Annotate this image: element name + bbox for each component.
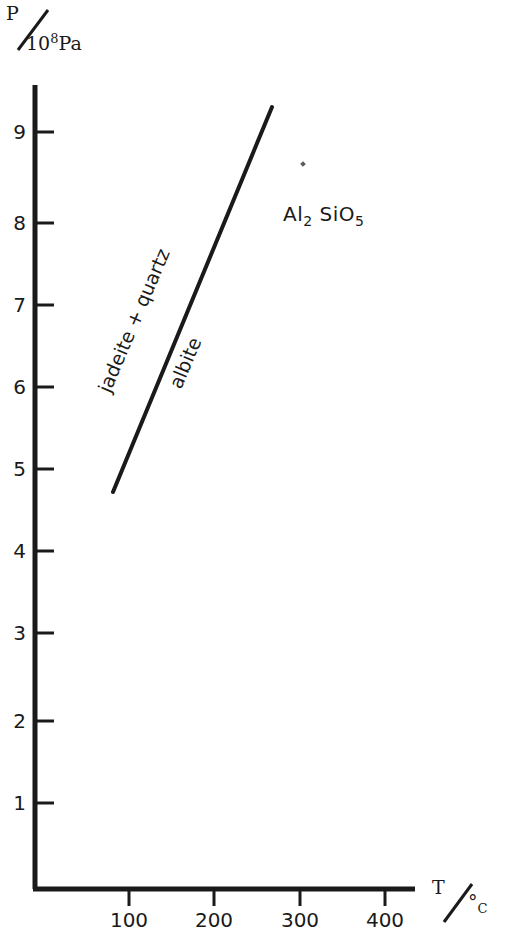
- y-tick-label-1: 1: [0, 793, 26, 813]
- y-axis-unit-pa: Pa: [58, 32, 81, 54]
- y-axis-title-denominator: 108Pa: [26, 34, 82, 53]
- y-tick-label-5: 5: [0, 459, 26, 479]
- plot-area: [0, 0, 512, 935]
- y-tick-label-8: 8: [0, 213, 26, 233]
- y-tick-label-2: 2: [0, 711, 26, 731]
- y-tick-label-3: 3: [0, 623, 26, 643]
- y-axis-ticks: [36, 132, 54, 803]
- degree-symbol: °: [468, 890, 478, 912]
- x-tick-label-300: 300: [270, 910, 330, 930]
- x-tick-label-100: 100: [99, 910, 159, 930]
- y-tick-label-6: 6: [0, 377, 26, 397]
- formula-element-sio: SiO: [320, 202, 356, 226]
- x-axis-title-denominator: °C: [468, 892, 487, 911]
- formula-subscript-2: 2: [303, 213, 312, 229]
- formula-subscript-5: 5: [355, 213, 364, 229]
- y-axis-title: P 108Pa: [4, 4, 134, 70]
- x-tick-label-400: 400: [355, 910, 415, 930]
- y-axis-unit-base: 10: [26, 32, 50, 54]
- y-tick-label-7: 7: [0, 295, 26, 315]
- x-axis-title: T °C: [430, 878, 510, 934]
- phase-diagram-figure: P 108Pa T °C 9 8 7 6 5 4 3 2 1 100 200 3…: [0, 0, 512, 935]
- x-tick-label-200: 200: [184, 910, 244, 930]
- y-tick-label-4: 4: [0, 541, 26, 561]
- formula-element-al: Al: [283, 202, 303, 226]
- x-axis-unit-celsius: C: [478, 901, 488, 916]
- x-axis-ticks: [129, 890, 385, 906]
- formula-annotation: Al2 SiO5: [283, 203, 364, 225]
- y-tick-label-9: 9: [0, 122, 26, 142]
